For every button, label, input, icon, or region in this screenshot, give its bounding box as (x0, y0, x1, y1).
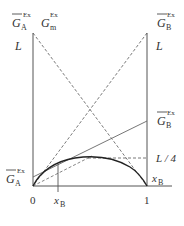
label-gb-mid: G B Ex (157, 109, 175, 130)
label-quarter: L / 4 (155, 152, 176, 164)
label-xb-right: x B (151, 172, 163, 187)
label-ga-bottom: G A Ex (6, 167, 25, 188)
svg-text:x: x (151, 172, 157, 184)
svg-text:A: A (21, 23, 27, 32)
svg-text:Ex: Ex (167, 109, 175, 117)
svg-text:G: G (12, 16, 21, 30)
svg-text:Ex: Ex (50, 11, 58, 19)
svg-text:B: B (60, 200, 65, 209)
svg-text:B: B (158, 178, 163, 187)
label-l-left: L (14, 39, 22, 53)
svg-text:B: B (166, 121, 171, 130)
label-gm-top: G m Ex (41, 11, 58, 32)
svg-text:x: x (53, 194, 59, 206)
label-gb-top: G B Ex (157, 11, 175, 32)
svg-text:Ex: Ex (167, 11, 175, 19)
gm-ex-curve (33, 157, 147, 186)
svg-text:G: G (41, 16, 50, 30)
svg-text:G: G (157, 114, 166, 128)
svg-text:G: G (6, 172, 15, 186)
svg-text:Ex: Ex (17, 167, 25, 175)
gibbs-diagram: G A Ex L G m Ex G B Ex L G B Ex L / 4 G … (0, 0, 184, 226)
tangent-line (33, 121, 147, 177)
label-xb-axis: x B (53, 194, 65, 209)
label-ga-top: G A Ex (12, 11, 31, 32)
svg-text:m: m (50, 23, 57, 32)
label-l-right: L (155, 39, 163, 53)
svg-text:Ex: Ex (23, 11, 31, 19)
svg-text:A: A (15, 179, 21, 188)
tick-zero: 0 (30, 194, 36, 206)
svg-text:G: G (157, 16, 166, 30)
tick-one: 1 (144, 194, 150, 206)
svg-text:B: B (166, 23, 171, 32)
